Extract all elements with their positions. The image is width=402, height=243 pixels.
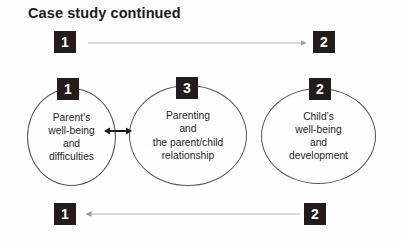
badge-top-right: 2: [313, 31, 335, 53]
badge-bottom-right: 2: [304, 203, 326, 225]
ellipse-parent-wellbeing: Parent’s well-being and difficulties: [27, 88, 116, 186]
badge-top-left: 1: [54, 31, 76, 53]
slide-canvas: Case study continued 1 2 1 3 2: [0, 0, 402, 243]
text-line: difficulties: [48, 150, 94, 163]
text-line: and: [289, 136, 348, 149]
text-line: well-being: [48, 124, 94, 137]
ellipse-child-wellbeing-label: Child’s well-being and development: [285, 110, 352, 163]
text-line: the parent/child: [153, 136, 223, 149]
ellipse-parenting-relationship: Parenting and the parent/child relations…: [129, 85, 247, 186]
text-line: and: [153, 122, 223, 135]
text-line: Parenting: [153, 109, 223, 122]
text-line: relationship: [153, 149, 223, 162]
ellipse-parent-wellbeing-label: Parent’s well-being and difficulties: [44, 111, 98, 164]
text-line: Parent’s: [48, 111, 94, 124]
text-line: well-being: [289, 123, 348, 136]
text-line: Child’s: [289, 110, 348, 123]
text-line: and: [48, 137, 94, 150]
bidirectional-connector-icon: [104, 124, 132, 138]
text-line: development: [289, 149, 348, 162]
ellipse-parenting-relationship-label: Parenting and the parent/child relations…: [149, 109, 227, 162]
ellipse-child-wellbeing: Child’s well-being and development: [261, 88, 376, 184]
badge-parenting-relationship: 3: [176, 77, 198, 99]
badge-bottom-left: 1: [54, 203, 76, 225]
badge-parent-wellbeing: 1: [57, 78, 79, 100]
badge-child-wellbeing: 2: [309, 78, 331, 100]
